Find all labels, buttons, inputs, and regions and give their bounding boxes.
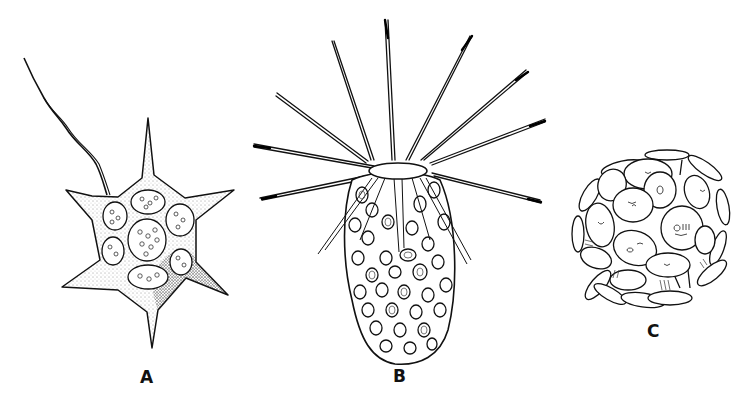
panel-label-c: C xyxy=(647,323,659,340)
panel-a: A xyxy=(0,0,250,405)
organism-a-drawing xyxy=(0,0,250,405)
organism-c-drawing xyxy=(560,140,747,350)
figure: A xyxy=(0,0,747,405)
panel-c: C xyxy=(560,140,747,350)
panel-label-b: B xyxy=(393,368,406,385)
panel-label-a: A xyxy=(140,369,153,386)
panel-b: B xyxy=(240,0,560,405)
organism-b-drawing xyxy=(240,0,560,405)
